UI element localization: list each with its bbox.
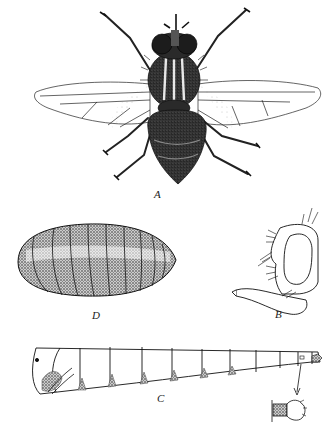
label-d: D (92, 310, 100, 321)
left-eye (152, 34, 172, 54)
label-a: A (154, 189, 161, 200)
frons (171, 30, 179, 46)
figure-a-fly (35, 8, 321, 184)
right-eye (177, 34, 197, 54)
abdomen (148, 110, 206, 184)
illustration-plate: A D B C (0, 0, 335, 427)
plate-drawing (0, 0, 335, 427)
figure-d-puparium (18, 224, 176, 296)
antennae (164, 14, 189, 30)
label-b: B (275, 309, 282, 320)
left-wing (35, 82, 151, 128)
label-c: C (157, 393, 164, 404)
figure-b-head-profile (232, 208, 318, 314)
right-wing (198, 81, 321, 128)
detail-arrow (297, 364, 301, 392)
figure-c-larva (33, 347, 322, 394)
spiracle-detail (272, 400, 307, 422)
